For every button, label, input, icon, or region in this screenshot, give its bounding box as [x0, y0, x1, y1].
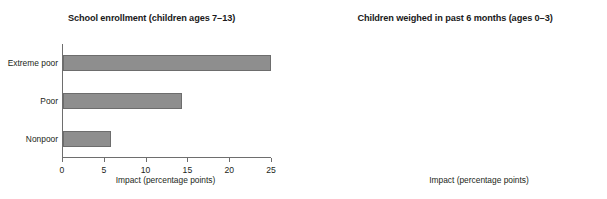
x-axis-tick-label: 20 [224, 165, 234, 175]
x-axis-tick [146, 158, 147, 162]
category-label: Nonpoor [26, 134, 58, 144]
category-label: Extreme poor [8, 58, 58, 68]
x-axis-tick-label: 10 [141, 165, 151, 175]
x-axis-tick-label: 0 [60, 165, 65, 175]
x-axis-tick [187, 158, 188, 162]
bar-row: Nonpoor [63, 131, 111, 147]
x-axis-title-left: Impact (percentage points) [0, 175, 303, 185]
x-axis-tick [62, 158, 63, 162]
x-axis-tick-label: 5 [101, 165, 106, 175]
bar [63, 131, 111, 147]
bar-row: Extreme poor [63, 55, 271, 71]
figure-two-bar-charts: School enrollment (children ages 7–13) E… [0, 0, 607, 199]
chart-panel-children-weighed: Children weighed in past 6 months (ages … [303, 0, 607, 199]
plot-area-left: Extreme poorPoorNonpoor0510152025 [62, 44, 271, 158]
x-axis-tick [271, 158, 272, 162]
chart-title-right: Children weighed in past 6 months (ages … [303, 13, 607, 23]
chart-panel-school-enrollment: School enrollment (children ages 7–13) E… [0, 0, 303, 199]
x-axis-tick [229, 158, 230, 162]
bar-row: Poor [63, 93, 182, 109]
bar [63, 55, 271, 71]
category-label: Poor [40, 96, 58, 106]
x-axis-tick-label: 25 [266, 165, 276, 175]
chart-title-left: School enrollment (children ages 7–13) [0, 13, 303, 23]
x-axis-line-left [62, 157, 271, 158]
x-axis-title-right: Impact (percentage points) [303, 175, 607, 185]
x-axis-tick [104, 158, 105, 162]
x-axis-tick-label: 15 [183, 165, 193, 175]
bar [63, 93, 182, 109]
